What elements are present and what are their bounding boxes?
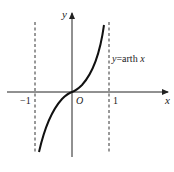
x-tick-1: 1 (113, 95, 118, 106)
function-label: y=arth x (111, 53, 145, 64)
arth-function-graph: y x O −1 1 y=arth x (0, 0, 174, 172)
x-tick-neg1: −1 (20, 95, 31, 106)
y-axis-label: y (61, 8, 67, 20)
origin-label: O (76, 95, 83, 106)
x-axis-label: x (164, 94, 170, 106)
